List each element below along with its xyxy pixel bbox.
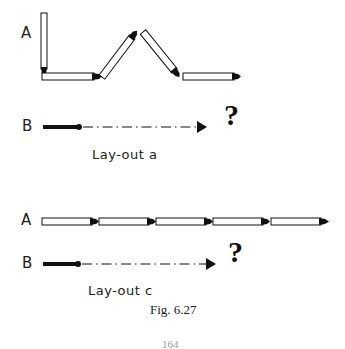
layout-c-matchsticks [42,218,329,225]
matchstick-icon [42,218,99,225]
layout-a-matchsticks [41,13,241,80]
matchstick-icon [140,30,182,79]
matchstick-icon [41,13,47,75]
matchstick-icon [183,73,241,80]
arrow-icon [197,121,207,133]
matchstick-icon [213,218,270,225]
matchstick-diagram [0,0,345,349]
layout-c-b-path [43,258,216,270]
matchstick-icon [99,29,139,80]
matchstick-icon [271,218,329,225]
matchstick-icon [99,218,156,225]
matchstick-icon [42,73,102,80]
matchstick-icon [156,218,213,225]
layout-a-b-path [43,121,207,133]
arrow-icon [206,258,216,270]
